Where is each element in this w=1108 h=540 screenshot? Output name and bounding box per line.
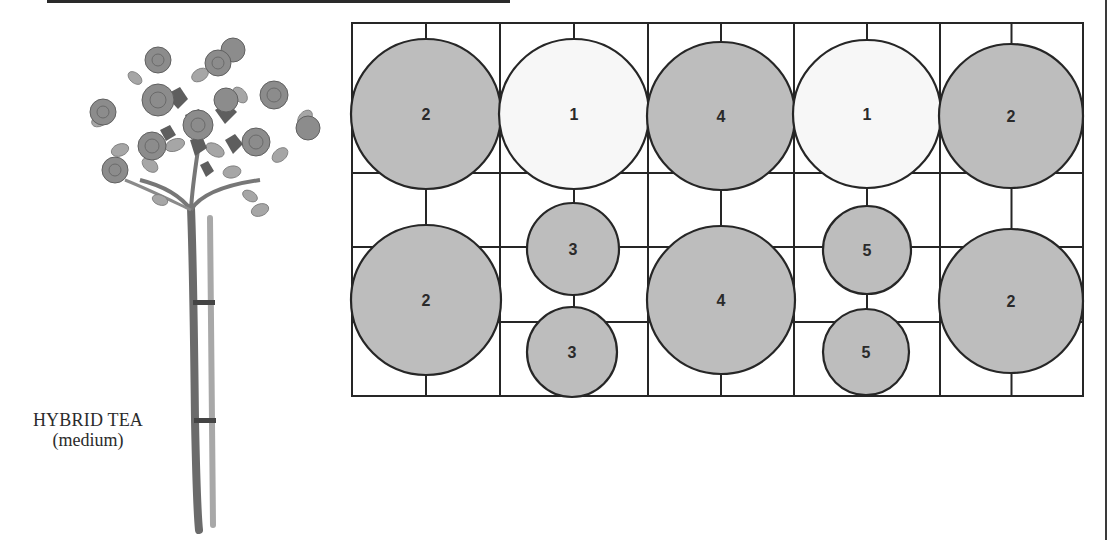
plant-number: 4: [717, 108, 726, 125]
plant-number: 5: [862, 344, 871, 361]
plant-circle-1: 1: [793, 40, 941, 188]
plant-circle-2: 2: [351, 225, 501, 375]
plant-circle-5: 5: [823, 206, 911, 294]
plant-number: 4: [717, 292, 726, 309]
plant-number: 3: [569, 241, 578, 258]
plant-circle-1: 1: [499, 39, 649, 189]
plant-number: 1: [570, 106, 579, 123]
plant-circles: 214122334552: [351, 39, 1083, 397]
plant-number: 2: [1007, 293, 1016, 310]
plant-circle-2: 2: [351, 39, 501, 189]
plant-circle-2: 2: [939, 229, 1083, 373]
plant-circle-4: 4: [647, 226, 795, 374]
plant-number: 1: [863, 106, 872, 123]
plant-number: 2: [422, 292, 431, 309]
plant-circle-2: 2: [939, 44, 1083, 188]
plant-number: 2: [422, 106, 431, 123]
plant-number: 3: [568, 344, 577, 361]
plant-circle-3: 3: [527, 203, 619, 295]
plant-number: 5: [863, 242, 872, 259]
plant-number: 2: [1007, 108, 1016, 125]
plant-circle-5: 5: [823, 309, 909, 395]
plant-circle-3: 3: [527, 307, 617, 397]
plant-circle-4: 4: [647, 42, 795, 190]
planting-plan-diagram: 214122334552: [0, 0, 1108, 540]
